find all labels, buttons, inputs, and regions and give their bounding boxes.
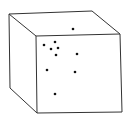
- edge-left-back: [9, 14, 10, 88]
- dot-front: [50, 48, 53, 51]
- edge-front-top: [36, 34, 120, 36]
- edge-top-back: [9, 11, 92, 14]
- cube-dots: [43, 28, 79, 96]
- dot-front: [46, 69, 49, 72]
- cube-edges: [9, 11, 122, 113]
- dot-front: [54, 93, 57, 96]
- edge-front-left: [36, 36, 37, 113]
- cube-diagram: [0, 0, 132, 126]
- dot-front: [54, 41, 57, 44]
- dot-front: [76, 53, 79, 56]
- dot-top: [72, 28, 75, 31]
- edge-left-bottom: [10, 88, 37, 113]
- dot-front: [74, 71, 77, 74]
- dot-front: [55, 54, 58, 57]
- edge-front-right: [120, 34, 122, 112]
- edge-front-bottom: [37, 112, 122, 113]
- dot-front: [57, 47, 60, 50]
- edge-top-right: [92, 11, 120, 34]
- dot-front: [43, 44, 46, 47]
- edge-top-left: [9, 14, 36, 36]
